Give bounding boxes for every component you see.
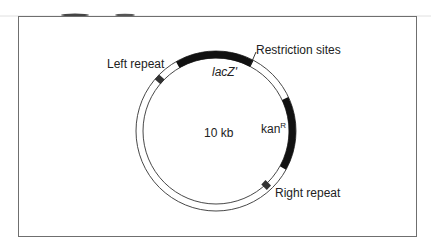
plasmid-map <box>0 0 431 248</box>
kan-label-text: kan <box>261 122 280 136</box>
left-repeat-label: Left repeat <box>107 58 164 70</box>
kan-label: kanR <box>261 123 286 135</box>
right-repeat-box <box>261 180 271 190</box>
restriction-sites-label: Restriction sites <box>256 44 341 56</box>
plasmid-size-label: 10 kb <box>204 127 233 139</box>
kan-label-superscript: R <box>280 121 286 130</box>
left-repeat-box <box>155 75 165 85</box>
lacz-label: lacZ' <box>212 66 237 78</box>
right-repeat-label: Right repeat <box>275 187 340 199</box>
